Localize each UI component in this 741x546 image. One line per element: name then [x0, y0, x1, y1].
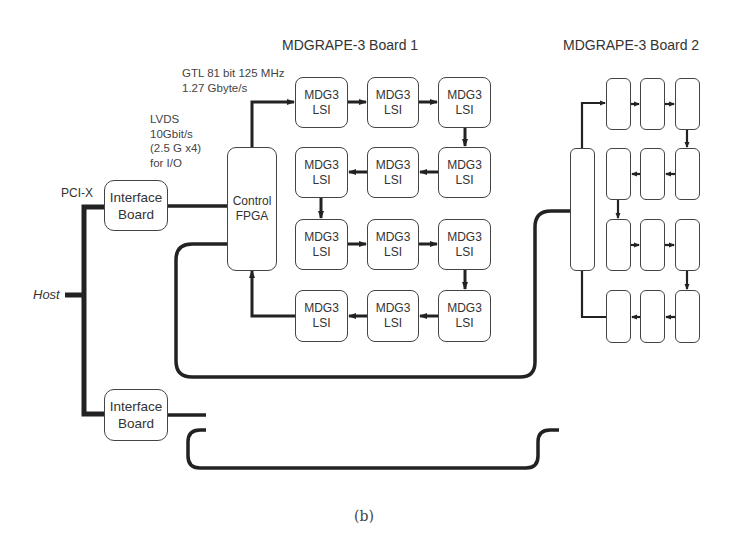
figure-caption: (b) [354, 508, 374, 524]
lsi-chip [640, 290, 665, 343]
cable-board3-board4 [188, 430, 559, 468]
gtl-annotation: GTL 81 bit 125 MHz 1.27 Gbyte/s [182, 66, 284, 95]
mdg3-lsi-chip: MDG3LSI [295, 77, 348, 128]
interface-board-label: Board [118, 206, 154, 223]
interface-board-label: Interface [110, 398, 163, 415]
mdg3-lsi-chip: MDG3LSI [295, 290, 348, 342]
control-fpga-board-2 [570, 148, 595, 271]
interface-board-label: Board [118, 415, 154, 432]
mdg3-lsi-chip: MDG3LSI [367, 290, 419, 342]
mdg3-lsi-chip: MDG3LSI [367, 147, 419, 198]
fpga-label: Control [233, 194, 272, 209]
lsi-chip [640, 148, 665, 200]
board-3: MDGRAPE-3 Board 3 [206, 402, 510, 454]
lsi-chip [675, 148, 700, 200]
lsi-chip [675, 78, 700, 130]
lsi-chip [640, 219, 665, 271]
mdg3-lsi-chip: MDG3LSI [438, 219, 491, 270]
mdg3-lsi-chip: MDG3LSI [438, 147, 491, 198]
fpga-label: FPGA [236, 209, 269, 224]
mdg3-lsi-chip: MDG3LSI [295, 147, 348, 198]
lsi-chip [606, 219, 631, 271]
board-4-title: MDGRAPE-3 Board 4 [568, 422, 699, 437]
board-3-title: MDGRAPE-3 Board 3 [290, 420, 426, 436]
board-4: MDGRAPE-3 Board 4 [559, 403, 708, 455]
host-label: Host [33, 287, 60, 302]
pci-x-label: PCI-X [61, 186, 93, 200]
mdg3-lsi-chip: MDG3LSI [438, 290, 491, 342]
lsi-chip [606, 78, 631, 130]
mdg3-lsi-chip: MDG3LSI [367, 219, 419, 270]
lsi-chip [640, 78, 665, 130]
lsi-chip [675, 290, 700, 343]
interface-board-1: Interface Board [104, 180, 168, 231]
interface-board-2: Interface Board [104, 389, 168, 441]
control-fpga-board-1: Control FPGA [227, 147, 277, 271]
lvds-annotation: LVDS 10Gbit/s (2.5 G x4) for I/O [150, 112, 201, 170]
mdg3-lsi-chip: MDG3LSI [438, 77, 491, 128]
board-1-title: MDGRAPE-3 Board 1 [282, 37, 418, 53]
lsi-chip [606, 148, 631, 200]
mdg3-lsi-chip: MDG3LSI [295, 219, 348, 270]
board-2-title: MDGRAPE-3 Board 2 [563, 37, 699, 53]
interface-board-label: Interface [110, 189, 163, 206]
mdg3-lsi-chip: MDG3LSI [367, 77, 419, 128]
lsi-chip [606, 290, 631, 343]
host-bus [65, 207, 104, 414]
lsi-chip [675, 219, 700, 271]
